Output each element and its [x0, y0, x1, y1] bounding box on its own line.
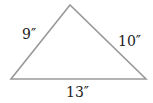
side-label-bottom: 13″ [66, 84, 89, 100]
triangle-diagram: 9″ 10″ 13″ [0, 0, 153, 103]
side-label-right: 10″ [118, 33, 141, 49]
side-label-left: 9″ [22, 26, 36, 42]
